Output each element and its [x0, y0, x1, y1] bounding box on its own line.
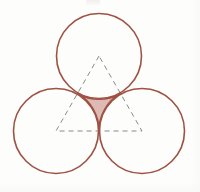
geometry-canvas — [0, 0, 200, 192]
geometry-figure — [0, 0, 200, 192]
